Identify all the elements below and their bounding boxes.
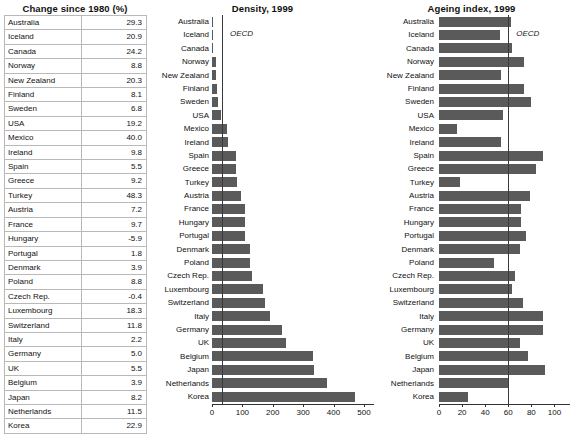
table-cell-value: 8.2 xyxy=(81,390,146,404)
axis-tick xyxy=(554,404,555,407)
table-cell-country: France xyxy=(5,217,82,231)
bar-row xyxy=(212,363,370,376)
table-cell-country: Mexico xyxy=(5,131,82,145)
table-row: New Zealand20.3 xyxy=(5,73,147,87)
table-cell-value: 29.3 xyxy=(81,16,146,30)
table-row: Hungary-5.9 xyxy=(5,232,147,246)
bar xyxy=(439,137,501,147)
table-cell-country: Netherlands xyxy=(5,404,82,418)
bar-row xyxy=(439,229,566,242)
table-cell-value: 11.8 xyxy=(81,318,146,332)
ageing-index-chart-panel: Ageing index, 1999 AustraliaIcelandCanad… xyxy=(375,0,568,363)
table-row: Netherlands11.5 xyxy=(5,404,147,418)
category-label: Finland xyxy=(375,82,437,95)
bar xyxy=(212,378,327,388)
bar xyxy=(439,298,523,308)
table-cell-country: New Zealand xyxy=(5,73,82,87)
bar xyxy=(212,17,213,27)
category-label: Germany xyxy=(150,323,212,336)
bar xyxy=(212,97,218,107)
density-x-axis: 0100200300400500 xyxy=(212,404,374,405)
bar-row xyxy=(212,283,370,296)
bar-row xyxy=(439,69,566,82)
category-label: Sweden xyxy=(150,95,212,108)
category-label: Austria xyxy=(150,189,212,202)
table-cell-country: Greece xyxy=(5,174,82,188)
category-label: Luxembourg xyxy=(375,283,437,296)
bar-row xyxy=(212,377,370,390)
density-category-labels: AustraliaIcelandCanadaNorwayNew ZealandF… xyxy=(150,15,212,403)
table-cell-country: Turkey xyxy=(5,188,82,202)
category-label: Denmark xyxy=(375,243,437,256)
category-label: Turkey xyxy=(150,176,212,189)
category-label: Sweden xyxy=(375,95,437,108)
bar xyxy=(212,137,228,147)
axis-tick xyxy=(212,404,213,407)
bar-row xyxy=(439,136,566,149)
bar-row xyxy=(439,269,566,282)
category-label: Luxembourg xyxy=(150,283,212,296)
table-cell-value: 9.2 xyxy=(81,174,146,188)
table-cell-country: Norway xyxy=(5,59,82,73)
axis-tick xyxy=(485,404,486,407)
table-cell-value: 3.9 xyxy=(81,376,146,390)
table-row: Germany5.0 xyxy=(5,347,147,361)
bar xyxy=(212,57,216,67)
table-row: UK5.5 xyxy=(5,361,147,375)
category-label: Poland xyxy=(375,256,437,269)
category-label: Mexico xyxy=(375,122,437,135)
table-row: Korea22.9 xyxy=(5,419,147,433)
bar xyxy=(212,258,250,268)
bar-row xyxy=(212,42,370,55)
axis-tick xyxy=(439,404,440,407)
category-label: Ireland xyxy=(150,136,212,149)
bar xyxy=(212,338,286,348)
bar xyxy=(212,124,227,134)
category-label: Iceland xyxy=(375,28,437,41)
bar xyxy=(212,164,236,174)
table-row: Italy2.2 xyxy=(5,332,147,346)
table-cell-value: 5.0 xyxy=(81,347,146,361)
table-row: Australia29.3 xyxy=(5,16,147,30)
bar xyxy=(439,311,543,321)
table-cell-country: UK xyxy=(5,361,82,375)
bar-row xyxy=(439,256,566,269)
table-row: USA19.2 xyxy=(5,116,147,130)
bar xyxy=(212,392,355,402)
bar-row xyxy=(212,136,370,149)
bar xyxy=(439,84,524,94)
bar-row xyxy=(212,256,370,269)
table-row: Japan8.2 xyxy=(5,390,147,404)
category-label: Netherlands xyxy=(375,377,437,390)
category-label: USA xyxy=(150,109,212,122)
table-row: Denmark3.9 xyxy=(5,260,147,274)
bar-row xyxy=(212,122,370,135)
bar xyxy=(212,191,241,201)
bar-row xyxy=(439,42,566,55)
bar xyxy=(439,191,530,201)
category-label: Turkey xyxy=(375,176,437,189)
bar xyxy=(212,284,263,294)
table-cell-value: 8.8 xyxy=(81,59,146,73)
axis-tick xyxy=(462,404,463,407)
bar-row xyxy=(439,202,566,215)
bar xyxy=(439,392,468,402)
bar xyxy=(439,17,511,27)
table-cell-country: Finland xyxy=(5,88,82,102)
axis-tick-label: 0 xyxy=(210,408,214,417)
ageing-oecd-reference-line xyxy=(508,15,509,404)
table-cell-value: 11.5 xyxy=(81,404,146,418)
category-label: Hungary xyxy=(150,216,212,229)
category-label: USA xyxy=(375,109,437,122)
axis-tick xyxy=(508,404,509,407)
table-row: Canada24.2 xyxy=(5,44,147,58)
bar-row xyxy=(439,323,566,336)
table-cell-value: 5.5 xyxy=(81,160,146,174)
table-row: Finland8.1 xyxy=(5,88,147,102)
bar xyxy=(212,311,270,321)
bar-row xyxy=(212,243,370,256)
bar xyxy=(212,43,213,53)
bar xyxy=(439,43,512,53)
category-label: UK xyxy=(375,336,437,349)
